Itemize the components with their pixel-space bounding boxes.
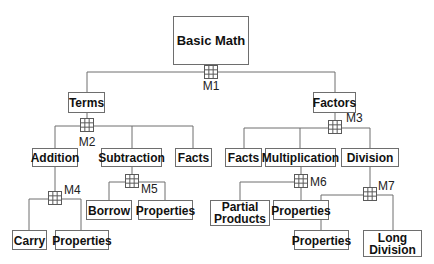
node-addition-properties: Properties [52, 231, 112, 250]
node-borrow: Borrow [87, 201, 132, 220]
node-label: Addition [31, 151, 80, 165]
module-label: M2 [79, 135, 96, 149]
module-label: M7 [378, 179, 395, 193]
node-label: Properties [292, 234, 352, 248]
node-factors: Factors [313, 93, 357, 113]
node-addition: Addition [31, 149, 80, 167]
module-m2: M2 [79, 119, 96, 150]
module-label: M6 [310, 175, 327, 189]
grid-3x3-icon [295, 175, 308, 188]
grid-3x3-icon [364, 188, 377, 201]
node-carry: Carry [13, 231, 47, 250]
module-m1: M1 [203, 66, 220, 94]
grid-3x3-icon [126, 175, 139, 188]
grid-3x3-icon [205, 66, 218, 79]
module-m4: M4 [49, 183, 81, 205]
node-long-division: Long Division [364, 231, 422, 258]
node-label: Properties [271, 204, 331, 218]
node-division-properties: Properties [292, 231, 352, 250]
node-label: Properties [52, 234, 112, 248]
node-basic-math: Basic Math [174, 17, 249, 65]
node-label: Factors [313, 96, 357, 110]
node-label: Multiplication [262, 151, 339, 165]
node-label: Properties [136, 204, 196, 218]
module-label: M1 [203, 79, 220, 93]
node-subtraction-properties: Properties [136, 201, 196, 220]
module-label: M4 [64, 183, 81, 197]
node-label-line2: Products [214, 212, 266, 226]
node-partial-products: Partial Products [211, 200, 270, 226]
module-m7: M7 [364, 179, 395, 201]
node-division: Division [342, 149, 399, 167]
node-label: Basic Math [177, 33, 246, 48]
module-m6: M6 [295, 175, 327, 190]
module-m3: M3 [329, 111, 363, 134]
node-label: Carry [14, 234, 46, 248]
node-label: Facts [178, 151, 210, 165]
grid-3x3-icon [49, 192, 62, 205]
node-multiplication: Multiplication [262, 149, 339, 167]
module-label: M5 [141, 182, 158, 196]
grid-3x3-icon [81, 119, 94, 132]
node-multiplication-properties: Properties [271, 201, 331, 220]
node-label: Subtraction [98, 151, 165, 165]
node-label: Terms [69, 96, 104, 110]
node-terms-facts: Facts [176, 149, 212, 167]
node-label-line2: Division [369, 243, 416, 257]
node-terms: Terms [69, 93, 105, 113]
node-subtraction: Subtraction [98, 149, 165, 167]
node-label: Borrow [88, 204, 131, 218]
node-label: Facts [228, 151, 260, 165]
node-factors-facts: Facts [226, 149, 262, 167]
node-label: Division [347, 151, 394, 165]
basic-math-tree-diagram: Basic Math Terms Factors Addition Subtra… [0, 0, 434, 264]
module-label: M3 [346, 111, 363, 125]
grid-3x3-icon [329, 121, 342, 134]
module-m5: M5 [126, 175, 158, 197]
